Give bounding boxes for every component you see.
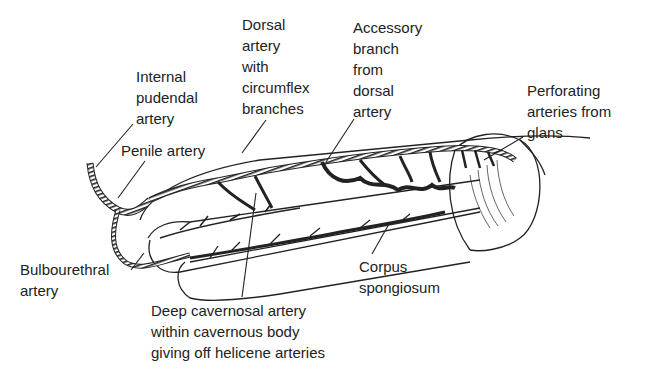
penile-arterial-anatomy-diagram: Internal pudendal artery Penile artery D…	[0, 0, 646, 377]
label-penile-artery: Penile artery	[121, 140, 205, 161]
perforating-arteries	[462, 150, 494, 168]
bulbourethral-artery	[114, 210, 190, 266]
label-dorsal-artery: Dorsal artery with circumflex branches	[242, 14, 310, 119]
label-accessory-branch: Accessory branch from dorsal artery	[353, 17, 422, 122]
label-corpus-spongiosum: Corpus spongiosum	[359, 256, 440, 298]
label-internal-pudendal-artery: Internal pudendal artery	[136, 66, 198, 129]
label-deep-cavernosal-artery: Deep cavernosal artery within cavernous …	[151, 300, 325, 363]
label-perforating-arteries: Perforating arteries from glans	[527, 80, 611, 143]
label-bulbourethral-artery: Bulbourethral artery	[20, 259, 109, 301]
urethral-artery	[190, 212, 445, 258]
internal-pudendal-artery	[90, 163, 150, 212]
